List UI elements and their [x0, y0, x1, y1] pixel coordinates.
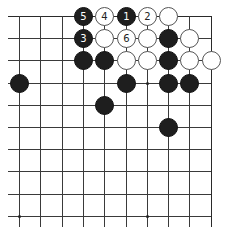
grid-line-horizontal	[8, 149, 212, 150]
move-number: 6	[123, 34, 129, 44]
black-stone	[159, 74, 178, 93]
move-number: 2	[144, 12, 150, 22]
black-stone	[159, 51, 178, 70]
grid-line-horizontal	[8, 171, 212, 172]
star-point	[18, 215, 21, 218]
white-stone	[138, 51, 157, 70]
black-stone	[117, 74, 136, 93]
black-stone	[95, 51, 114, 70]
white-stone: 4	[95, 7, 114, 26]
go-board: 541236	[0, 0, 229, 231]
grid-line-horizontal	[8, 194, 212, 195]
black-stone	[95, 96, 114, 115]
star-point	[146, 215, 149, 218]
black-stone	[159, 29, 178, 48]
grid-line-vertical	[62, 16, 63, 227]
white-stone	[95, 29, 114, 48]
black-stone	[180, 74, 199, 93]
move-number: 5	[80, 12, 86, 22]
white-stone	[180, 51, 199, 70]
grid-line-vertical	[211, 16, 212, 227]
white-stone	[138, 29, 157, 48]
star-point	[146, 82, 149, 85]
black-stone	[10, 74, 29, 93]
grid-line-horizontal	[8, 216, 212, 217]
grid-line-horizontal	[8, 127, 212, 128]
black-stone: 3	[74, 29, 93, 48]
white-stone	[159, 7, 178, 26]
white-stone: 6	[117, 29, 136, 48]
white-stone	[180, 29, 199, 48]
black-stone	[159, 118, 178, 137]
white-stone: 2	[138, 7, 157, 26]
white-stone	[117, 51, 136, 70]
white-stone	[202, 51, 221, 70]
grid-line-vertical	[40, 16, 41, 227]
black-stone	[74, 51, 93, 70]
move-number: 1	[123, 12, 129, 22]
black-stone: 5	[74, 7, 93, 26]
grid-line-vertical	[19, 16, 20, 227]
black-stone: 1	[117, 7, 136, 26]
move-number: 3	[80, 34, 86, 44]
move-number: 4	[101, 12, 107, 22]
